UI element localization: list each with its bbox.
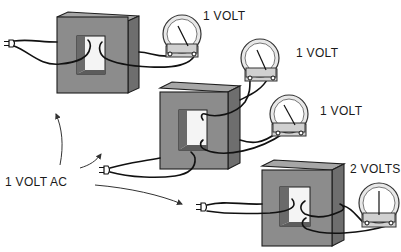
voltmeter-1 [163, 15, 201, 57]
arrow-to-transformer-2 [80, 154, 101, 168]
voltmeter-2b [270, 95, 308, 136]
plug-icon-2 [99, 166, 110, 174]
plug-icon-3 [196, 203, 207, 211]
meter-label-3: 2 VOLTS [350, 162, 401, 176]
arrow-to-transformer-1 [56, 114, 62, 165]
transformer-diagram: 1 VOLT [0, 0, 401, 252]
plug-icon-1 [4, 40, 15, 47]
transformer-core-1 [57, 12, 139, 93]
transformer-1: 1 VOLT [4, 9, 246, 93]
voltmeter-3 [359, 183, 399, 227]
voltmeter-2a [241, 39, 279, 81]
meter-label-2a: 1 VOLT [296, 46, 339, 60]
arrow-to-transformer-3 [95, 185, 182, 204]
transformer-3: 2 VOLTS [196, 160, 401, 246]
meter-label-1: 1 VOLT [203, 9, 246, 23]
transformer-core-2 [160, 82, 240, 169]
source-label: 1 VOLT AC [5, 175, 67, 189]
meter-label-2b: 1 VOLT [320, 104, 363, 118]
